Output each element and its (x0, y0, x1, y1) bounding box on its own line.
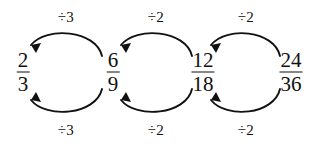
operation-label-bottom-3: ÷2 (238, 122, 254, 139)
arrow-top-2 (121, 33, 192, 56)
arrow-bottom-2 (121, 89, 192, 112)
operation-label-top-3: ÷2 (238, 9, 254, 26)
fraction-3-denominator: 18 (192, 73, 215, 95)
operation-label-bottom-1: ÷3 (58, 122, 74, 139)
arrow-bottom-3 (211, 89, 280, 112)
operation-label-bottom-2: ÷2 (148, 122, 164, 139)
fraction-1: 2 3 (17, 50, 30, 95)
arrow-top-1 (31, 33, 102, 56)
arrow-bottom-1 (31, 89, 102, 112)
fraction-3: 12 18 (192, 50, 215, 95)
fraction-3-numerator: 12 (192, 50, 215, 73)
fraction-1-denominator: 3 (17, 73, 30, 95)
fraction-2-denominator: 9 (107, 73, 120, 95)
fraction-4-numerator: 24 (280, 50, 303, 73)
fraction-2-numerator: 6 (107, 50, 120, 73)
arrow-top-3 (211, 33, 280, 56)
fraction-1-numerator: 2 (17, 50, 30, 73)
fraction-4-denominator: 36 (280, 73, 303, 95)
fraction-2: 6 9 (107, 50, 120, 95)
fraction-4: 24 36 (280, 50, 303, 95)
operation-label-top-1: ÷3 (58, 9, 74, 26)
operation-label-top-2: ÷2 (148, 9, 164, 26)
fraction-diagram: 2 3 6 9 12 18 24 36 ÷3 ÷2 ÷2 ÷3 ÷2 ÷2 (0, 0, 313, 145)
